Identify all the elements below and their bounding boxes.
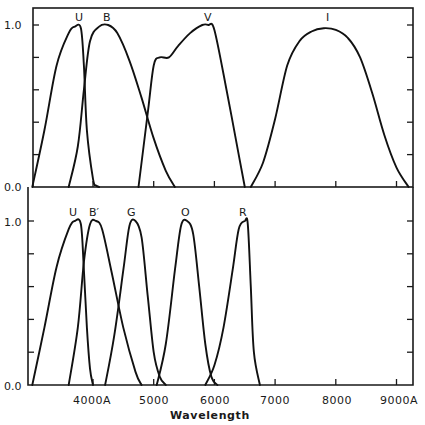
x-axis-title: Wavelength <box>170 409 250 422</box>
bottom-panel-frame <box>28 187 413 385</box>
top-curve-label-v: V <box>204 11 212 24</box>
curve-b-prime <box>69 220 142 385</box>
top-y-label-1: 1.0 <box>4 19 22 32</box>
bottom-curves <box>32 218 260 385</box>
x-axis: 4000A 5000 6000 7000 8000 9000A Waveleng… <box>73 394 418 422</box>
curve-u <box>32 219 93 385</box>
filter-response-chart: 1.0 0.0 U B V I 1.0 0.0 U B′ G O R 4000A… <box>0 0 425 425</box>
x-tick-label-8000: 8000 <box>322 394 352 407</box>
bottom-y-label-0: 0.0 <box>4 380 22 393</box>
top-curves <box>32 24 408 187</box>
curve-i <box>251 28 409 187</box>
bottom-y-label-1: 1.0 <box>4 216 22 229</box>
bottom-curve-label-u: U <box>69 206 77 219</box>
curve-g <box>105 220 166 385</box>
x-tick-label-7000: 7000 <box>260 394 290 407</box>
curve-v <box>139 24 245 187</box>
bottom-curve-label-b-prime: B′ <box>89 206 100 219</box>
x-tick-label-6000: 6000 <box>200 394 230 407</box>
x-tick-label-5000: 5000 <box>139 394 169 407</box>
top-panel: 1.0 0.0 U B V I <box>4 8 413 194</box>
bottom-panel: 1.0 0.0 U B′ G O R <box>4 187 413 393</box>
x-tick-label-4000: 4000A <box>73 394 111 407</box>
bottom-curve-label-g: G <box>127 206 136 219</box>
x-tick-label-9000: 9000A <box>380 394 418 407</box>
top-curve-label-i: I <box>326 11 329 24</box>
top-y-label-0: 0.0 <box>4 181 22 194</box>
bottom-curve-label-o: O <box>181 206 190 219</box>
curve-r <box>205 218 260 385</box>
bottom-curve-label-r: R <box>239 206 247 219</box>
curve-o <box>157 220 218 385</box>
top-curve-label-b: B <box>103 11 111 24</box>
top-curve-label-u: U <box>75 11 83 24</box>
